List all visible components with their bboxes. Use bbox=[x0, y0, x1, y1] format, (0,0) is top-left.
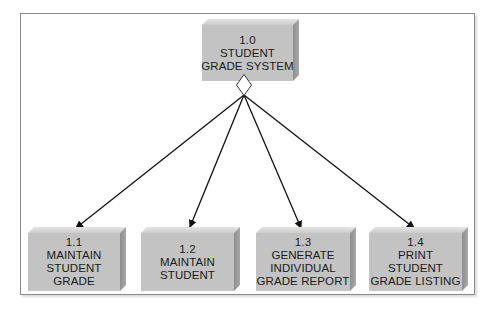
module-number: 1.1 bbox=[66, 236, 82, 249]
module-number: 1.3 bbox=[295, 236, 311, 249]
module-label-line: PRINT bbox=[398, 249, 433, 262]
diamond-condition-icon bbox=[236, 74, 252, 96]
module-number: 1.2 bbox=[179, 243, 195, 256]
module-label-line: GRADE SYSTEM bbox=[201, 60, 294, 73]
module-label-line: STUDENT bbox=[46, 262, 101, 275]
module-label-line: GRADE bbox=[53, 275, 94, 288]
box-side-face bbox=[462, 227, 468, 291]
module-1-1-maintain-student-grade: 1.1 MAINTAIN STUDENT GRADE bbox=[28, 227, 126, 291]
box-side-face bbox=[350, 227, 356, 291]
box-front-face: 1.1 MAINTAIN STUDENT GRADE bbox=[28, 233, 120, 291]
module-label-line: STUDENT bbox=[220, 47, 275, 60]
module-label-line: GRADE REPORT bbox=[256, 275, 349, 288]
module-label-line: GRADE LISTING bbox=[370, 275, 460, 288]
module-1-2-maintain-student: 1.2 MAINTAIN STUDENT bbox=[141, 227, 240, 291]
module-label-line: INDIVIDUAL bbox=[270, 262, 336, 275]
module-1-4-print-student-grade-listing: 1.4 PRINT STUDENT GRADE LISTING bbox=[369, 227, 468, 291]
box-side-face bbox=[293, 19, 299, 81]
box-front-face: 1.0 STUDENT GRADE SYSTEM bbox=[202, 25, 293, 81]
module-label-line: GENERATE bbox=[271, 249, 334, 262]
box-front-face: 1.3 GENERATE INDIVIDUAL GRADE REPORT bbox=[256, 233, 350, 291]
module-1-0-student-grade-system: 1.0 STUDENT GRADE SYSTEM bbox=[202, 19, 299, 81]
box-side-face bbox=[120, 227, 126, 291]
box-side-face bbox=[234, 227, 240, 291]
module-1-3-generate-individual-grade-report: 1.3 GENERATE INDIVIDUAL GRADE REPORT bbox=[256, 227, 356, 291]
module-label-line: STUDENT bbox=[388, 262, 443, 275]
module-number: 1.4 bbox=[407, 236, 423, 249]
module-label-line: STUDENT bbox=[160, 269, 215, 282]
module-label-line: MAINTAIN bbox=[160, 256, 215, 269]
box-front-face: 1.4 PRINT STUDENT GRADE LISTING bbox=[369, 233, 462, 291]
module-number: 1.0 bbox=[239, 34, 255, 47]
box-front-face: 1.2 MAINTAIN STUDENT bbox=[141, 233, 234, 291]
module-label-line: MAINTAIN bbox=[47, 249, 102, 262]
